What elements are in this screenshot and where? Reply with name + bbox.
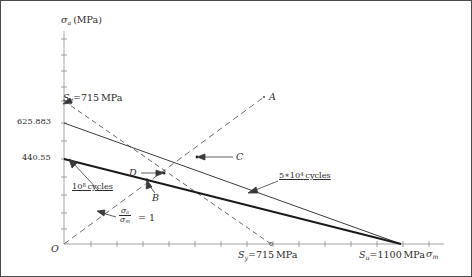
leader-lines: [63, 98, 278, 246]
line-1e8-cycles: [64, 159, 401, 244]
point-A-label: A: [269, 92, 276, 102]
point-D-label: D: [129, 168, 137, 178]
label-5e4-cycles: 5∗104 cycles: [279, 171, 331, 179]
point-A-marker: [263, 96, 265, 98]
su-xaxis-label: Su=1100 MPa: [359, 250, 425, 261]
fatigue-diagram-plot: [1, 1, 472, 277]
point-B-label: B: [152, 193, 159, 203]
y-tick-label-625: 625.883: [17, 117, 51, 125]
ratio-annotation: σa σm = 1: [119, 207, 155, 225]
sy-xaxis-label: Sy=715 MPa: [238, 250, 297, 261]
point-C-label: C: [236, 152, 243, 162]
yield-line-dashed: [64, 101, 271, 244]
y-tick-label-440: 440.55: [22, 153, 51, 161]
y-axis-label: σa (MPa): [61, 15, 102, 26]
line-5e4-cycles: [64, 123, 401, 244]
sy-yaxis-label: Sy=715 MPa: [63, 93, 122, 104]
figure-frame: σa (MPa) σm O 625.883 440.55 Sy=715 MPa …: [0, 0, 472, 277]
x-axis-label: σm: [426, 249, 438, 260]
label-1e8-cycles: 108 cycles: [72, 182, 113, 190]
load-line-ratio-1: [64, 97, 264, 244]
origin-label: O: [51, 244, 59, 254]
